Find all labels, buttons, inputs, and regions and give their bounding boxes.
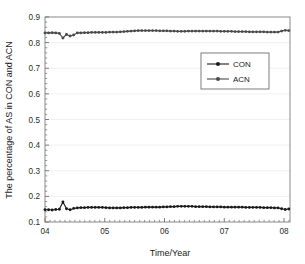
data-point-marker xyxy=(165,29,168,32)
data-point-marker xyxy=(137,29,140,32)
data-point-marker xyxy=(216,30,219,33)
chart-figure: 0.10.20.30.40.50.60.70.80.9 0405060708 C… xyxy=(0,0,305,264)
data-point-marker xyxy=(148,206,151,209)
data-point-marker xyxy=(90,31,93,34)
data-point-marker xyxy=(151,29,154,32)
data-point-marker xyxy=(137,206,140,209)
data-point-marker xyxy=(173,205,176,208)
data-point-marker xyxy=(165,205,168,208)
data-point-marker xyxy=(180,30,183,33)
data-point-marker xyxy=(65,207,68,210)
x-tick-label: 05 xyxy=(100,227,110,236)
data-point-marker xyxy=(219,30,222,33)
data-point-marker xyxy=(223,30,226,33)
y-axis-title: The percentage of AS in CON and ACN xyxy=(4,41,14,199)
data-point-marker xyxy=(94,206,97,209)
data-point-marker xyxy=(266,206,269,209)
data-point-marker xyxy=(61,201,64,204)
data-point-marker xyxy=(76,31,79,34)
data-point-marker xyxy=(176,205,179,208)
data-point-marker xyxy=(277,206,280,209)
data-point-marker xyxy=(241,30,244,33)
data-point-marker xyxy=(72,33,75,36)
data-point-marker xyxy=(212,30,215,33)
data-point-marker xyxy=(194,205,197,208)
chart-legend: CONACN xyxy=(201,53,269,89)
data-point-marker xyxy=(108,31,111,34)
data-point-marker xyxy=(54,208,57,211)
data-point-marker xyxy=(83,31,86,34)
data-point-marker xyxy=(248,206,251,209)
legend-label-acn: ACN xyxy=(233,75,250,84)
data-point-marker xyxy=(230,206,233,209)
data-point-marker xyxy=(230,30,233,33)
legend-label-con: CON xyxy=(233,60,251,69)
data-point-marker xyxy=(90,206,93,209)
data-point-marker xyxy=(58,32,61,35)
y-tick-label: 0.7 xyxy=(29,64,41,73)
x-tick-labels: 0405060708 xyxy=(40,227,289,236)
legend-marker-con xyxy=(216,62,220,66)
data-point-marker xyxy=(284,29,287,32)
data-point-marker xyxy=(122,206,125,209)
data-point-marker xyxy=(287,207,290,210)
data-point-marker xyxy=(44,31,47,34)
data-point-marker xyxy=(223,206,226,209)
data-point-marker xyxy=(115,206,118,209)
y-tick-label: 0.2 xyxy=(29,192,41,201)
data-point-marker xyxy=(94,31,97,34)
data-point-marker xyxy=(180,205,183,208)
data-point-marker xyxy=(262,206,265,209)
y-tick-label: 0.9 xyxy=(29,13,41,22)
data-point-marker xyxy=(273,31,276,34)
data-point-marker xyxy=(237,206,240,209)
data-point-marker xyxy=(79,206,82,209)
data-point-marker xyxy=(97,31,100,34)
data-point-marker xyxy=(126,206,129,209)
data-point-marker xyxy=(241,206,244,209)
data-point-marker xyxy=(158,206,161,209)
data-point-marker xyxy=(287,29,290,32)
data-point-marker xyxy=(119,30,122,33)
data-point-marker xyxy=(212,205,215,208)
data-point-marker xyxy=(252,206,255,209)
data-point-marker xyxy=(69,35,72,38)
data-point-marker xyxy=(105,206,108,209)
data-point-marker xyxy=(216,205,219,208)
data-point-marker xyxy=(119,206,122,209)
data-point-marker xyxy=(205,30,208,33)
x-axis-title: Time/Year xyxy=(150,248,190,258)
legend-marker-acn xyxy=(216,77,220,81)
line-chart: 0.10.20.30.40.50.60.70.80.9 0405060708 C… xyxy=(0,0,305,264)
data-point-marker xyxy=(219,205,222,208)
data-point-marker xyxy=(269,31,272,34)
data-point-marker xyxy=(51,209,54,212)
y-tick-label: 0.4 xyxy=(29,141,41,150)
data-point-marker xyxy=(205,205,208,208)
y-tick-labels: 0.10.20.30.40.50.60.70.80.9 xyxy=(29,13,41,227)
data-point-marker xyxy=(284,208,287,211)
data-point-marker xyxy=(262,30,265,33)
data-point-marker xyxy=(83,206,86,209)
data-point-marker xyxy=(58,208,61,211)
data-point-marker xyxy=(87,31,90,34)
data-point-marker xyxy=(280,30,283,33)
data-point-marker xyxy=(162,205,165,208)
data-point-marker xyxy=(101,206,104,209)
data-point-marker xyxy=(259,206,262,209)
data-point-marker xyxy=(176,30,179,33)
data-point-marker xyxy=(79,31,82,34)
data-point-marker xyxy=(191,30,194,33)
data-point-marker xyxy=(155,206,158,209)
data-point-marker xyxy=(155,29,158,32)
data-point-marker xyxy=(183,30,186,33)
data-point-marker xyxy=(255,30,258,33)
data-point-marker xyxy=(187,30,190,33)
data-point-marker xyxy=(266,31,269,34)
data-point-marker xyxy=(51,31,54,34)
data-point-marker xyxy=(115,31,118,34)
data-point-marker xyxy=(108,206,111,209)
data-point-marker xyxy=(144,206,147,209)
data-point-marker xyxy=(198,30,201,33)
data-point-marker xyxy=(130,30,133,33)
